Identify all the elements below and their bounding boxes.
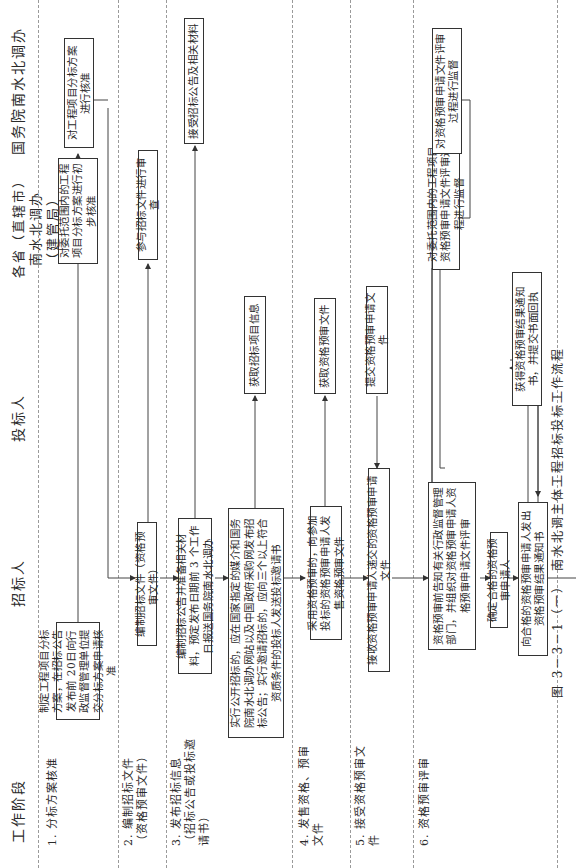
box-s5-bidder: 提交资格预审申请文件 xyxy=(366,286,388,394)
box-s6-province: 对委托范围内的工程项目资格预审申请文件评审过程进行监督 xyxy=(432,138,460,270)
flowchart-page: 工作阶段 招标人 投标人 各省（直辖市） 南水北调办（建管局） 国务院南水北调办… xyxy=(0,0,576,868)
box-s6a-tenderer: 资格预审前告知有关行政监督管理部门，并组织对资格预审申请人资格预审申请文件评审 xyxy=(428,482,476,650)
box-s4-tenderer: 采用资格预审的，向参加投标的资格预审申请人发售资格预审文件 xyxy=(310,506,342,640)
box-s1-state: 对工程项目分标方案进行核准 xyxy=(64,38,94,148)
box-s3a-tenderer: 编制招标公告并准备相关材料，预定发布日期前 3 个工作日报送国务院南水北调办 xyxy=(178,518,212,674)
box-s4-bidder: 获取资格预审文件 xyxy=(314,298,336,394)
box-s3b-tenderer: 实行公开招标的，应在国家指定的媒介和国务院南水北调办网站以及中国政府采购网发布招… xyxy=(228,508,284,738)
figure-caption: 图 3－3－1（一） 南水北调主体工程招标投标工作流程 xyxy=(548,347,565,698)
box-s6-state: 对资格预审申请文件评审过程进行监督 xyxy=(432,28,462,154)
box-s2-tenderer: 编制招标文件（资格预审文件） xyxy=(137,522,157,646)
box-s1-province: 对委托范围内的工程项目分标方案进行初步核准 xyxy=(58,158,98,264)
box-s6b-tenderer: 确定合格的资格预审申请人 xyxy=(490,532,508,628)
box-s1-tenderer: 制定工程项目分标方案，在招标公告发布前 20日向行政监督管理单位提交分标方案申请… xyxy=(56,622,100,720)
box-s2-province: 参与招标文件进行审查 xyxy=(138,150,158,260)
box-s3-state: 接受招标公告及相关材料 xyxy=(184,18,204,144)
box-s5-tenderer: 接收资格预审申请人递交的资格预审申请文件 xyxy=(368,468,390,672)
box-s6c-tenderer: 向合格的资格预审申请人发出资格预审结果通知书 xyxy=(518,502,548,656)
box-s3-bidder: 获取招标项目信息 xyxy=(244,296,266,394)
box-s6-bidder: 获得资格预审结果通知书，并提交书面回执 xyxy=(512,272,542,406)
